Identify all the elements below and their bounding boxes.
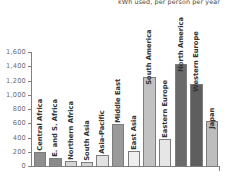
bar[interactable]: South America xyxy=(143,77,156,167)
bar[interactable]: Asia-Pacific xyxy=(96,155,109,167)
chart-title: kWh used, per person per year xyxy=(118,0,238,7)
y-axis-tick-label: 1,600 xyxy=(6,49,26,56)
y-axis-tick-label: 400 xyxy=(13,134,26,141)
x-axis-end-tick xyxy=(219,167,220,171)
bar[interactable]: Northern Africa xyxy=(65,161,78,167)
bar-category-label: Western Europe xyxy=(193,32,200,93)
y-axis-tick-label: 200 xyxy=(13,148,26,155)
bar-category-label: South America xyxy=(146,29,153,84)
bar-category-label: Eastern Europe xyxy=(162,80,169,138)
bar[interactable]: Japan xyxy=(206,121,219,167)
chart-figure: kWh used, per person per year 1,6001,400… xyxy=(0,0,238,179)
y-axis-tick-label: 600 xyxy=(13,120,26,127)
bar-category-label: Middle East xyxy=(115,79,122,123)
bar-category-label: Asia-Pacific xyxy=(99,110,106,154)
bar-category-label: South Asia xyxy=(83,120,90,161)
bar-category-label: Japan xyxy=(209,107,216,128)
bar-category-label: North America xyxy=(177,17,184,72)
y-axis-tick-label: 0 xyxy=(22,163,26,170)
bar[interactable]: South Asia xyxy=(81,162,94,167)
bar-series: Central AfricaE. and S. AfricaNorthern A… xyxy=(32,50,220,167)
bar[interactable]: North America xyxy=(175,64,188,167)
bar[interactable]: Central Africa xyxy=(34,152,47,167)
y-axis-tick-label: 1,000 xyxy=(6,91,26,98)
bar[interactable]: Eastern Europe xyxy=(159,139,172,168)
y-axis-tick-label: 800 xyxy=(13,106,26,113)
bar-category-label: Northern Africa xyxy=(68,101,75,160)
y-axis-tick-label: 1,200 xyxy=(6,77,26,84)
plot-area: 1,6001,4001,2001,0008006004002000 Centra… xyxy=(31,50,220,168)
bar[interactable]: East Asia xyxy=(128,151,141,167)
bar-category-label: E. and S. Africa xyxy=(52,99,59,157)
bar[interactable]: Middle East xyxy=(112,124,125,167)
bar[interactable]: Western Europe xyxy=(190,84,203,167)
y-axis-tick-label: 1,400 xyxy=(6,63,26,70)
bar-category-label: East Asia xyxy=(130,115,137,150)
bar[interactable]: E. and S. Africa xyxy=(49,158,62,167)
bar-category-label: Central Africa xyxy=(36,99,43,151)
